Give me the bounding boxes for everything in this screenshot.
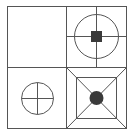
filled-circle bbox=[90, 91, 104, 105]
cell-bottom-left bbox=[22, 83, 54, 115]
puzzle-diagram bbox=[0, 0, 130, 133]
cell-top-right bbox=[67, 7, 127, 68]
cell-bottom-right bbox=[67, 68, 127, 129]
filled-square bbox=[91, 31, 102, 42]
